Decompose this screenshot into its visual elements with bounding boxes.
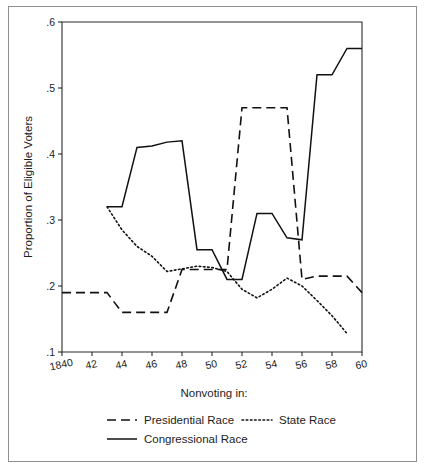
plot-axes — [62, 22, 362, 352]
series-state-race — [107, 207, 347, 334]
line-chart: .1.2.3.4.5.6 184042444648505254565860 Pr… — [0, 0, 427, 473]
data-series-group — [62, 48, 362, 333]
y-tick-label: .5 — [46, 82, 55, 94]
y-tick-label: .2 — [46, 280, 55, 292]
legend-label-presidential-race: Presidential Race — [144, 414, 234, 426]
legend-title: Nonvoting in: — [180, 387, 247, 399]
legend-label-state-race: State Race — [279, 414, 336, 426]
y-axis-title: Proportion of Eligible Voters — [22, 116, 34, 258]
x-tick-label: 60 — [354, 357, 368, 371]
y-tick-label: .3 — [46, 214, 55, 226]
figure-page: .1.2.3.4.5.6 184042444648505254565860 Pr… — [0, 0, 427, 473]
axis-box — [62, 22, 362, 352]
y-tick-label: .4 — [46, 148, 55, 160]
y-tick-label: .6 — [46, 16, 55, 28]
x-tick-label: 54 — [264, 357, 278, 371]
x-tick-label: 48 — [174, 357, 188, 371]
x-tick-label: 58 — [324, 357, 338, 371]
x-tick-label: 44 — [114, 357, 128, 371]
x-tick-label: 50 — [204, 357, 218, 371]
series-congressional-race — [107, 48, 362, 279]
x-axis-ticks: 184042444648505254565860 — [48, 352, 368, 372]
y-tick-label: .1 — [46, 346, 55, 358]
x-tick-label: 42 — [84, 357, 98, 371]
series-presidential-race — [62, 108, 362, 313]
x-tick-label: 1840 — [48, 356, 73, 373]
legend-label-congressional-race: Congressional Race — [144, 433, 248, 445]
x-tick-label: 52 — [234, 357, 248, 371]
y-axis-ticks: .1.2.3.4.5.6 — [46, 16, 62, 358]
x-tick-label: 56 — [294, 357, 308, 371]
x-tick-label: 46 — [144, 357, 158, 371]
chart-legend: Presidential RaceState RaceCongressional… — [107, 414, 336, 445]
